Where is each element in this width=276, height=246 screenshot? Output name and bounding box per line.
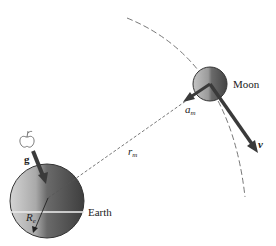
distance-subscript: m bbox=[132, 151, 137, 159]
distance-label: rm bbox=[128, 146, 137, 159]
earth-radius-symbol: R bbox=[26, 211, 33, 223]
moon-label: Moon bbox=[233, 79, 259, 90]
g-label: g bbox=[24, 154, 30, 165]
apple-icon bbox=[20, 131, 34, 147]
a-m-subscript: m bbox=[191, 109, 196, 117]
v-vector-arrow bbox=[210, 84, 258, 153]
v-label: v bbox=[258, 139, 263, 150]
earth-radius-subscript: e bbox=[33, 217, 36, 225]
a-m-label: am bbox=[185, 104, 196, 117]
earth-moon-diagram bbox=[0, 0, 276, 246]
earth-radius-label: Re bbox=[26, 212, 36, 225]
earth-label: Earth bbox=[88, 207, 112, 218]
